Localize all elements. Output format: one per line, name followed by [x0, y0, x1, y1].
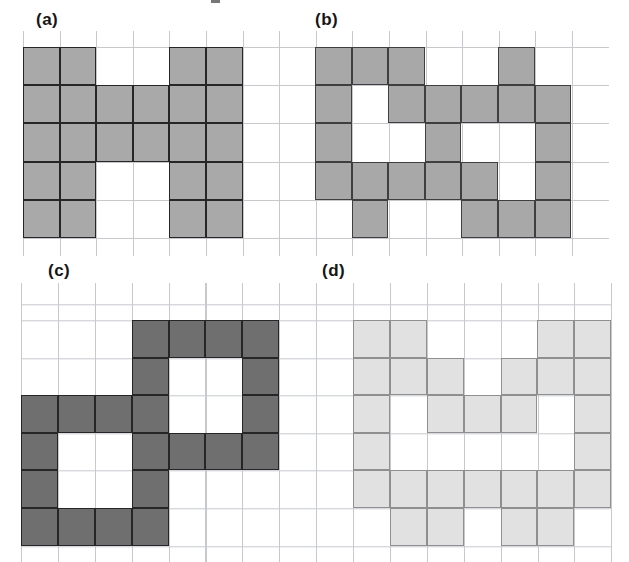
grid-cell-filled	[388, 47, 425, 85]
grid-cell-empty	[96, 200, 133, 238]
grid-cell-filled	[535, 200, 572, 238]
grid-cell-filled	[23, 200, 60, 238]
grid-cell-filled	[242, 320, 279, 358]
grid-cell-filled	[315, 162, 352, 200]
grid-cell-empty	[464, 358, 501, 396]
grid-cell-filled	[574, 320, 611, 358]
grid-cell-empty	[58, 358, 95, 396]
grid-cell-empty	[58, 433, 95, 471]
grid-cell-filled	[242, 433, 279, 471]
grid-cell-filled	[352, 162, 389, 200]
grid-cell-filled	[60, 162, 97, 200]
grid-cell-empty	[464, 433, 501, 471]
grid-cell-filled	[132, 395, 169, 433]
grid-cell-filled	[60, 47, 97, 85]
grid-cell-filled	[95, 395, 132, 433]
grid-cell-empty	[461, 47, 498, 85]
grid-cell-filled	[132, 508, 169, 546]
grid-cell-filled	[60, 200, 97, 238]
grid-cell-filled	[132, 433, 169, 471]
grid-cell-empty	[205, 508, 242, 546]
grid-cell-filled	[169, 162, 206, 200]
grid-cell-filled	[206, 162, 243, 200]
grid-cell-empty	[205, 395, 242, 433]
grid-cell-filled	[315, 47, 352, 85]
grid-cell-filled	[96, 123, 133, 161]
grid-cell-filled	[132, 320, 169, 358]
grid-cell-filled	[353, 320, 390, 358]
grid-cell-filled	[425, 162, 462, 200]
grid-cell-filled	[574, 433, 611, 471]
grid-cell-filled	[169, 123, 206, 161]
grid-cell-empty	[352, 85, 389, 123]
grid-cell-filled	[427, 358, 464, 396]
grid-cell-empty	[464, 320, 501, 358]
grid-cell-filled	[574, 358, 611, 396]
grid-cell-filled	[464, 470, 501, 508]
grid-cell-empty	[95, 358, 132, 396]
panel-label-a: (a)	[36, 10, 58, 30]
grid-cell-filled	[352, 200, 389, 238]
grid-cell-empty	[205, 470, 242, 508]
grid-cell-filled	[169, 85, 206, 123]
grid-cell-empty	[96, 47, 133, 85]
grid-cell-filled	[574, 470, 611, 508]
grid-cell-empty	[95, 470, 132, 508]
grid-cell-filled	[390, 508, 427, 546]
grid-cell-empty	[242, 470, 279, 508]
grid-cell-filled	[169, 433, 206, 471]
grid-cell-empty	[537, 395, 574, 433]
grid-cell-filled	[21, 433, 58, 471]
grid-cell-filled	[206, 200, 243, 238]
grid-cell-filled	[425, 123, 462, 161]
grid-cell-filled	[501, 358, 538, 396]
grid-cell-filled	[461, 162, 498, 200]
grid-cell-empty	[537, 433, 574, 471]
panel-label-d: (d)	[322, 261, 345, 281]
grid-cell-filled	[23, 85, 60, 123]
grid-cell-filled	[206, 47, 243, 85]
grid-cell-filled	[96, 85, 133, 123]
cropped-text-artifact	[211, 0, 220, 3]
grid-cell-empty	[390, 433, 427, 471]
grid-cell-empty	[498, 123, 535, 161]
grid-cell-filled	[353, 358, 390, 396]
grid-cell-empty	[169, 470, 206, 508]
grid-cell-empty	[425, 200, 462, 238]
grid-cell-filled	[132, 470, 169, 508]
grid-cell-filled	[21, 395, 58, 433]
grid-cell-filled	[464, 395, 501, 433]
grid-cell-empty	[133, 200, 170, 238]
grid-cell-empty	[21, 358, 58, 396]
grid-cell-empty	[96, 162, 133, 200]
grid-cell-filled	[501, 395, 538, 433]
grid-cell-empty	[353, 508, 390, 546]
grid-cell-filled	[352, 47, 389, 85]
grid-cell-empty	[427, 320, 464, 358]
grid-cell-filled	[390, 470, 427, 508]
grid-cell-filled	[23, 47, 60, 85]
polyomino-shape-b	[315, 47, 571, 238]
grid-cell-filled	[501, 508, 538, 546]
grid-cell-filled	[205, 320, 242, 358]
grid-cell-filled	[133, 85, 170, 123]
grid-cell-filled	[58, 508, 95, 546]
grid-cell-empty	[169, 395, 206, 433]
polyomino-shape-c	[21, 320, 279, 546]
grid-cell-filled	[242, 395, 279, 433]
grid-cell-filled	[60, 85, 97, 123]
grid-cell-filled	[390, 320, 427, 358]
grid-cell-empty	[58, 320, 95, 358]
grid-cell-filled	[169, 47, 206, 85]
grid-cell-empty	[205, 358, 242, 396]
grid-cell-filled	[535, 162, 572, 200]
grid-cell-filled	[23, 162, 60, 200]
grid-cell-filled	[535, 123, 572, 161]
grid-cell-empty	[535, 47, 572, 85]
grid-cell-filled	[353, 433, 390, 471]
grid-cell-empty	[464, 508, 501, 546]
grid-cell-filled	[498, 200, 535, 238]
grid-cell-filled	[60, 123, 97, 161]
grid-cell-empty	[133, 162, 170, 200]
grid-cell-empty	[498, 162, 535, 200]
